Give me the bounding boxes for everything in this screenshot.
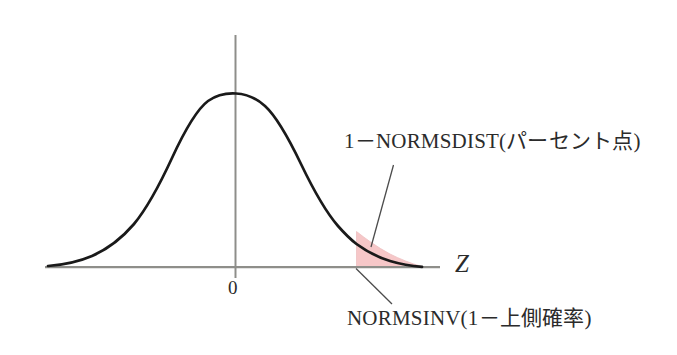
leader-line-normsinv	[356, 269, 392, 305]
figure-root: 1－NORMSDIST(パーセント点) NORMSINV(1－上側確率) Z 0	[0, 0, 677, 355]
x-axis-label: Z	[455, 250, 469, 278]
leader-line-normsdist	[371, 165, 394, 247]
annotation-normsinv-label: NORMSINV(1－上側確率)	[347, 301, 592, 331]
x-axis-tick-label-zero: 0	[228, 277, 238, 299]
annotation-normsdist-label: 1－NORMSDIST(パーセント点)	[344, 124, 641, 154]
